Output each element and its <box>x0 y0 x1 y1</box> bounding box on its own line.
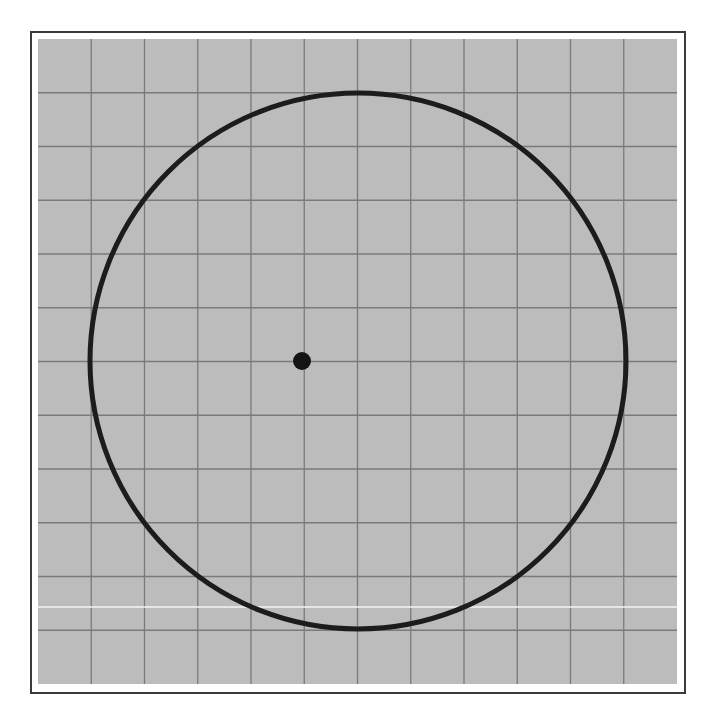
marked-point <box>293 352 311 370</box>
grid-diagram <box>0 0 713 725</box>
